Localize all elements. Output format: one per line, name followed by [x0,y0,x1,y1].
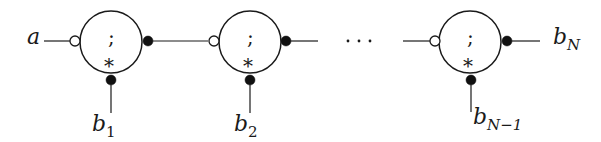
filled-port-icon [143,36,153,46]
filled-port-icon [466,75,476,85]
node-1: ; * b1 [44,11,153,141]
bottom-label-bn-1: bN−1 [473,104,522,134]
semicolon-symbol: ; [247,25,254,49]
chain-diagram: a ; * b1 ; * b2 [0,0,601,142]
node-2: ; * b2 [209,11,318,141]
input-label-a: a [27,24,40,49]
filled-port-icon [245,75,255,85]
semicolon-symbol: ; [467,25,474,49]
open-port-icon [209,36,219,46]
node-n: ; * bN−1 [403,11,540,134]
filled-port-icon [106,75,116,85]
output-label-bn: bN [553,24,581,54]
bottom-label-b2: b2 [234,111,258,141]
semicolon-symbol: ; [108,25,115,49]
asterisk-symbol: * [104,54,114,78]
open-port-icon [70,36,80,46]
filled-port-icon [502,36,512,46]
bottom-label-b1: b1 [92,111,116,141]
filled-port-icon [281,36,291,46]
asterisk-symbol: * [243,54,253,78]
open-port-icon [430,36,440,46]
asterisk-symbol: * [463,54,473,78]
ellipsis [347,40,372,43]
